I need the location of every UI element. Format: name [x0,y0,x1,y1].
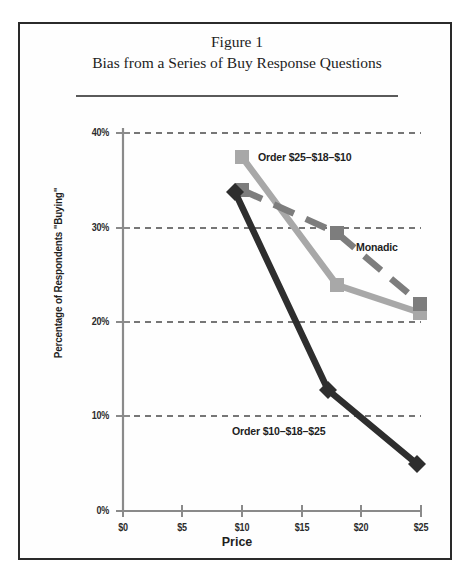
y-tick-label-30: 30% [80,221,109,233]
x-tick-label-20: $20 [346,521,377,533]
y-axis-title: Percentage of Respondents "Buying" [52,183,64,363]
annotation-monadic: Monadic [356,241,398,253]
x-tick-label-15: $15 [287,521,318,533]
x-tick-label-25: $25 [406,521,437,533]
marker-high-18 [330,278,344,292]
chart-plot-area: 40% 30% 20% 10% 0% $0 $5 $10 $15 $20 $25… [20,24,454,562]
x-axis-title: Price [20,535,454,549]
x-tick-label-10: $10 [227,521,258,533]
y-tick-label-10: 10% [80,409,109,421]
y-tick-label-40: 40% [80,126,109,138]
y-tick-label-0: 0% [80,504,109,516]
annotation-order-10-18-25: Order $10–$18–$25 [232,425,325,437]
x-tick-label-5: $5 [167,521,198,533]
chart-svg [20,24,454,562]
annotation-order-25-18-10: Order $25–$18–$10 [258,151,351,163]
series-line-low [235,192,417,464]
x-tick-label-0: $0 [108,521,139,533]
figure-frame: Figure 1 Bias from a Series of Buy Respo… [18,22,452,560]
y-tick-label-20: 20% [80,315,109,327]
marker-monadic-18 [330,226,344,240]
marker-high-10 [235,150,249,164]
marker-monadic-25 [413,297,427,311]
